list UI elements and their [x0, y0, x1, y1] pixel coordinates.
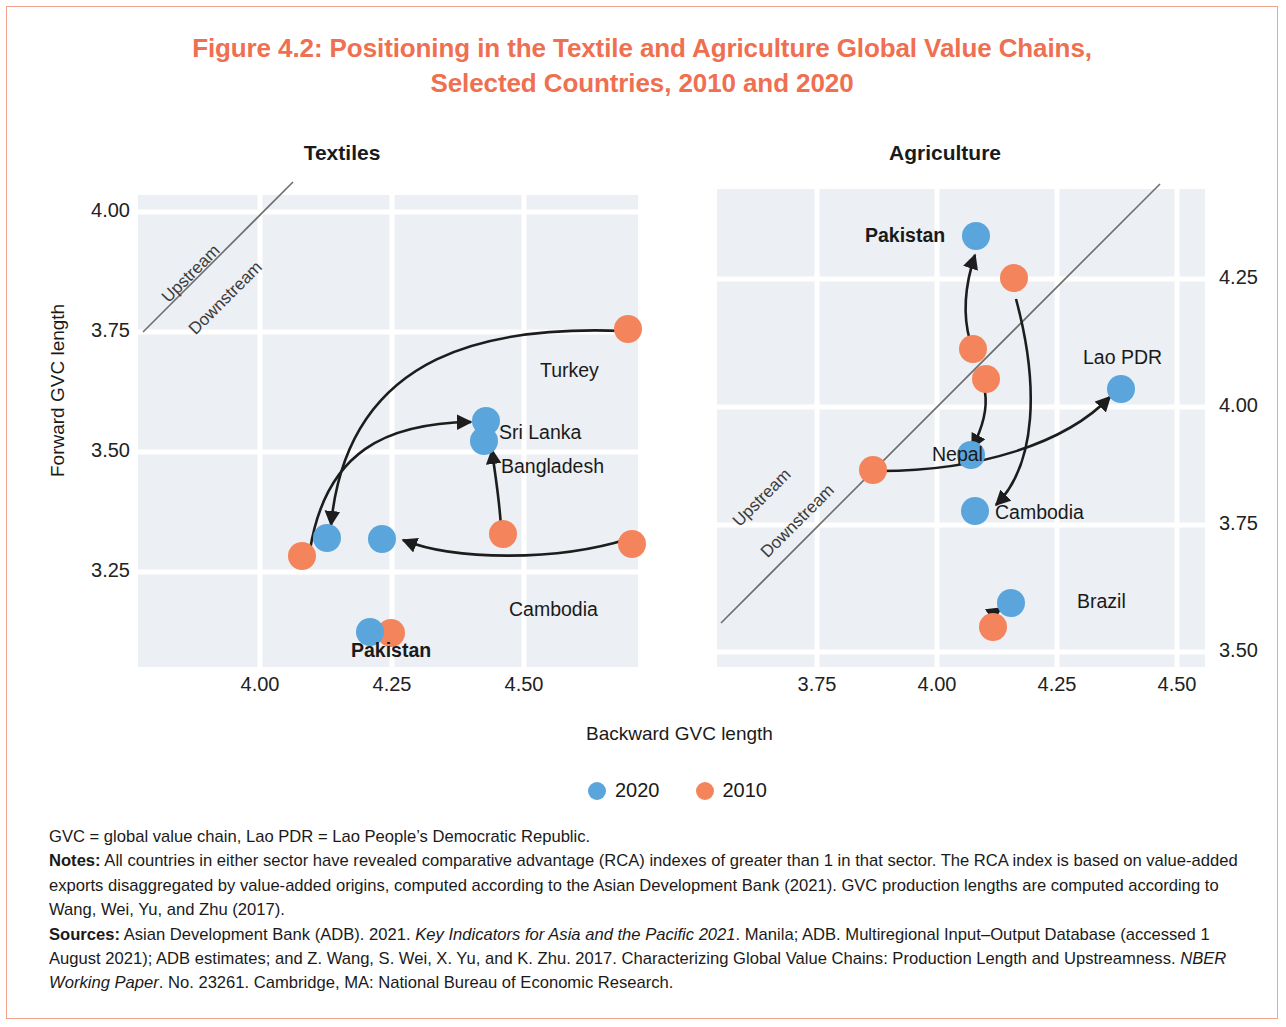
point-2010-nepal: [972, 365, 1000, 393]
point-2010-brazil: [979, 613, 1007, 641]
gridlines-agriculture: [717, 189, 1205, 667]
legend-dot-2020-icon: [588, 782, 606, 800]
x-axis-title: Backward GVC length: [586, 723, 773, 745]
label-agriculture-laopdr: Lao PDR: [1083, 346, 1162, 369]
legend-label-2010: 2010: [723, 779, 768, 802]
label-textiles-turkey: Turkey: [540, 359, 599, 382]
point-2010-laopdr: [859, 456, 887, 484]
point-2020-laopdr: [1107, 375, 1135, 403]
xtick-textiles-0: 4.00: [220, 673, 300, 696]
point-2010-srilanka: [288, 542, 316, 570]
sources-part-1: Asian Development Bank (ADB). 2021.: [120, 925, 415, 944]
point-2010-bangladesh: [489, 520, 517, 548]
point-2020-cambodia: [961, 497, 989, 525]
point-2020-pakistan: [962, 222, 990, 250]
panel-title-textiles: Textiles: [242, 141, 442, 165]
sources-paragraph: Sources: Asian Development Bank (ADB). 2…: [49, 923, 1244, 996]
ytick-textiles-0: 4.00: [62, 199, 130, 222]
transition-arrows-agriculture: [880, 255, 1110, 619]
notes-paragraph: Notes: All countries in either sector ha…: [49, 849, 1244, 922]
label-textiles-bangladesh: Bangladesh: [501, 455, 604, 478]
diagonal-divider-agriculture: [721, 184, 1160, 623]
xtick-textiles-2: 4.50: [484, 673, 564, 696]
label-agriculture-cambodia: Cambodia: [995, 501, 1084, 524]
legend: 2020 2010: [588, 779, 767, 802]
label-textiles-cambodia: Cambodia: [509, 598, 598, 621]
point-2020-turkey: [313, 524, 341, 552]
label-agriculture-nepal: Nepal: [932, 443, 983, 466]
point-2020-brazil: [997, 589, 1025, 617]
xtick-agriculture-0: 3.75: [777, 673, 857, 696]
legend-label-2020: 2020: [615, 779, 660, 802]
xtick-agriculture-3: 4.50: [1137, 673, 1217, 696]
ytick-agriculture-0: 4.25: [1219, 266, 1286, 289]
label-textiles-srilanka: Sri Lanka: [499, 421, 581, 444]
panel-title-agriculture: Agriculture: [845, 141, 1045, 165]
agriculture-plot-svg: [717, 189, 1205, 667]
footnotes: GVC = global value chain, Lao PDR = Lao …: [49, 825, 1244, 996]
ytick-textiles-1: 3.75: [62, 319, 130, 342]
series-2020-textiles: [313, 407, 500, 646]
plot-area-agriculture: [717, 189, 1205, 667]
figure-title-line1: Figure 4.2: Positioning in the Textile a…: [192, 33, 1092, 63]
abbreviations-line: GVC = global value chain, Lao PDR = Lao …: [49, 825, 1244, 849]
point-2010-pakistan: [959, 335, 987, 363]
xtick-agriculture-2: 4.25: [1017, 673, 1097, 696]
ytick-textiles-2: 3.50: [62, 439, 130, 462]
sources-label: Sources:: [49, 925, 120, 944]
label-textiles-pakistan: Pakistan: [351, 639, 431, 662]
label-agriculture-brazil: Brazil: [1077, 590, 1126, 613]
notes-body: All countries in either sector have reve…: [49, 851, 1238, 919]
figure-container: Figure 4.2: Positioning in the Textile a…: [6, 6, 1278, 1019]
label-agriculture-pakistan: Pakistan: [865, 224, 945, 247]
figure-title: Figure 4.2: Positioning in the Textile a…: [67, 31, 1217, 101]
sources-part-3: . No. 23261. Cambridge, MA: National Bur…: [159, 973, 674, 992]
point-2010-turkey: [614, 315, 642, 343]
notes-label: Notes:: [49, 851, 101, 870]
legend-item-2020[interactable]: 2020: [588, 779, 660, 802]
sources-italic-1: Key Indicators for Asia and the Pacific …: [415, 925, 735, 944]
ytick-textiles-3: 3.25: [62, 559, 130, 582]
y-axis-title: Forward GVC length: [47, 304, 69, 477]
point-2010-cambodia: [1000, 264, 1028, 292]
ytick-agriculture-3: 3.50: [1219, 639, 1286, 662]
point-2020-bangladesh: [470, 427, 498, 455]
ytick-agriculture-2: 3.75: [1219, 512, 1286, 535]
xtick-agriculture-1: 4.00: [897, 673, 977, 696]
xtick-textiles-1: 4.25: [352, 673, 432, 696]
legend-dot-2010-icon: [696, 782, 714, 800]
figure-title-line2: Selected Countries, 2010 and 2020: [430, 68, 853, 98]
ytick-agriculture-1: 4.00: [1219, 394, 1286, 417]
point-2010-cambodia: [618, 530, 646, 558]
point-2020-cambodia: [368, 525, 396, 553]
legend-item-2010[interactable]: 2010: [696, 779, 768, 802]
